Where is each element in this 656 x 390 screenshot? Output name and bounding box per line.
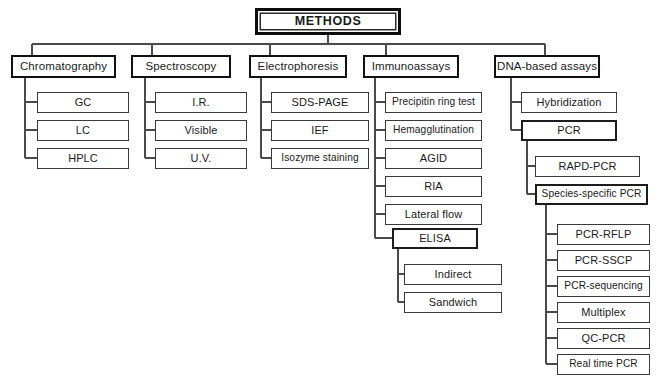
node-visible: Visible — [155, 120, 247, 141]
node-label: PCR-sequencing — [564, 281, 642, 292]
node-label: ELISA — [419, 233, 451, 245]
node-electrophoresis: Electrophoresis — [249, 55, 347, 78]
node-label: Sandwich — [429, 297, 478, 309]
node-hybridization: Hybridization — [521, 92, 617, 113]
node-label: SDS-PAGE — [292, 97, 349, 109]
node-ief: IEF — [271, 120, 369, 141]
node-dna-based-assays: DNA-based assays — [494, 55, 600, 78]
node-lc: LC — [37, 120, 129, 141]
node-label: RAPD-PCR — [558, 161, 616, 173]
node-lateral-flow: Lateral flow — [385, 204, 482, 225]
node-label: PCR — [557, 125, 581, 137]
node-chromatography: Chromatography — [11, 55, 116, 78]
node-pcr-sscp: PCR-SSCP — [557, 250, 650, 271]
node-label: METHODS — [295, 15, 362, 28]
methods-tree-diagram: METHODS Chromatography GC LC HPLC Spectr… — [0, 0, 656, 390]
node-label: PCR-RFLP — [576, 229, 632, 241]
node-uv: U.V. — [155, 148, 247, 169]
node-label: GC — [75, 97, 92, 109]
node-elisa: ELISA — [392, 228, 478, 249]
node-label: PCR-SSCP — [575, 255, 633, 267]
node-label: Multiplex — [581, 307, 625, 319]
node-label: Isozyme staining — [281, 153, 358, 164]
node-label: Precipitin ring test — [392, 97, 475, 108]
node-label: IEF — [311, 125, 328, 137]
node-label: RIA — [424, 181, 443, 193]
node-label: QC-PCR — [582, 333, 626, 345]
node-label: Hybridization — [537, 97, 602, 109]
node-hplc: HPLC — [37, 148, 129, 169]
node-label: Indirect — [435, 269, 472, 281]
node-sandwich: Sandwich — [404, 292, 502, 313]
node-pcr-rflp: PCR-RFLP — [557, 224, 650, 245]
node-label: Spectroscopy — [146, 60, 217, 72]
node-indirect: Indirect — [404, 264, 502, 285]
node-label: DNA-based assays — [497, 60, 597, 72]
node-label: Species-specific PCR — [542, 189, 642, 200]
node-label: Chromatography — [20, 60, 107, 72]
node-precipitin-ring-test: Precipitin ring test — [385, 92, 482, 113]
node-spectroscopy: Spectroscopy — [131, 55, 231, 78]
node-isozyme-staining: Isozyme staining — [271, 148, 369, 169]
node-label: Visible — [185, 125, 218, 137]
node-ria: RIA — [385, 176, 482, 197]
node-label: Lateral flow — [405, 209, 462, 221]
node-label: Real time PCR — [569, 359, 638, 370]
node-gc: GC — [37, 92, 129, 113]
node-multiplex: Multiplex — [557, 302, 650, 323]
node-pcr-sequencing: PCR-sequencing — [557, 276, 650, 297]
node-pcr: PCR — [521, 120, 617, 141]
node-label: HPLC — [68, 153, 98, 165]
node-ir: I.R. — [155, 92, 247, 113]
node-sds-page: SDS-PAGE — [271, 92, 369, 113]
node-label: Hemagglutination — [393, 125, 474, 136]
node-species-specific-pcr: Species-specific PCR — [535, 184, 648, 205]
node-immunoassays: Immunoassays — [363, 55, 459, 78]
node-real-time-pcr: Real time PCR — [557, 354, 650, 375]
node-label: I.R. — [192, 97, 210, 109]
node-methods: METHODS — [255, 8, 401, 35]
node-label: AGID — [420, 153, 447, 165]
node-label: Electrophoresis — [258, 60, 339, 72]
node-qc-pcr: QC-PCR — [557, 328, 650, 349]
node-hemagglutination: Hemagglutination — [385, 120, 482, 141]
node-label: Immunoassays — [372, 60, 451, 72]
node-label: U.V. — [191, 153, 212, 165]
node-agid: AGID — [385, 148, 482, 169]
node-label: LC — [76, 125, 90, 137]
node-rapd-pcr: RAPD-PCR — [535, 156, 640, 177]
